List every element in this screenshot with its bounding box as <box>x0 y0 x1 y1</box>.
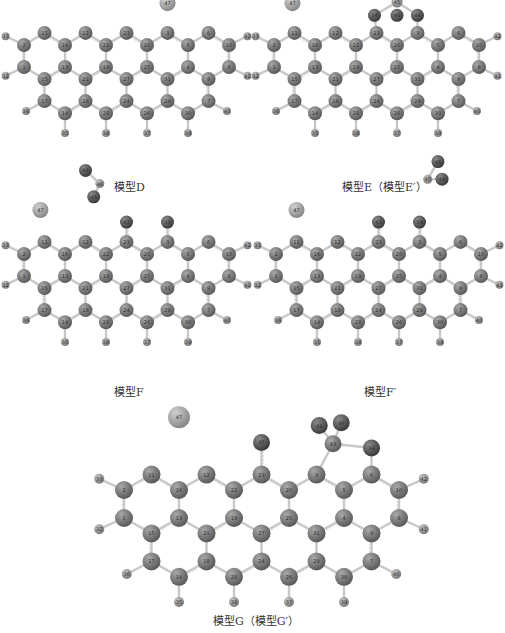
svg-text:35: 35 <box>62 339 68 345</box>
svg-text:20: 20 <box>286 487 292 493</box>
caption-model-f: 模型F <box>114 383 144 399</box>
svg-text:19: 19 <box>103 64 109 70</box>
svg-text:5: 5 <box>342 487 345 493</box>
svg-text:41: 41 <box>244 282 250 288</box>
svg-text:36: 36 <box>275 317 281 323</box>
svg-text:13: 13 <box>62 273 68 279</box>
svg-text:7: 7 <box>457 98 460 104</box>
svg-text:29: 29 <box>164 307 170 313</box>
svg-text:20: 20 <box>394 42 400 48</box>
svg-text:47: 47 <box>164 0 170 6</box>
svg-text:44: 44 <box>439 176 445 182</box>
svg-text:45: 45 <box>91 194 97 200</box>
svg-text:19: 19 <box>355 273 361 279</box>
svg-text:21: 21 <box>334 285 340 291</box>
svg-text:40: 40 <box>224 317 230 323</box>
svg-text:29: 29 <box>313 558 319 564</box>
svg-text:9: 9 <box>207 76 210 82</box>
svg-text:15: 15 <box>41 285 47 291</box>
svg-text:1: 1 <box>272 64 275 70</box>
svg-text:46: 46 <box>394 12 400 18</box>
svg-text:10: 10 <box>396 487 402 493</box>
svg-text:47: 47 <box>293 207 299 213</box>
svg-text:18: 18 <box>82 98 88 104</box>
svg-text:5: 5 <box>438 251 441 257</box>
svg-text:2: 2 <box>274 251 277 257</box>
svg-text:1: 1 <box>274 273 277 279</box>
svg-text:7: 7 <box>207 98 210 104</box>
svg-text:3: 3 <box>315 472 318 478</box>
svg-text:40: 40 <box>476 317 482 323</box>
svg-text:26: 26 <box>394 110 400 116</box>
svg-text:19: 19 <box>353 64 359 70</box>
svg-text:7: 7 <box>207 307 210 313</box>
svg-text:31: 31 <box>164 285 170 291</box>
svg-text:34: 34 <box>371 12 377 18</box>
svg-text:47: 47 <box>176 414 182 420</box>
svg-text:9: 9 <box>457 76 460 82</box>
svg-text:5: 5 <box>436 42 439 48</box>
panel-model-g: 2111612222320356101131925481521273191718… <box>80 400 425 633</box>
svg-text:22: 22 <box>231 487 237 493</box>
molecule-model-d: 2111612222320356101131925481521273191718… <box>0 0 252 200</box>
svg-text:7: 7 <box>459 307 462 313</box>
molecule-model-f: 2111612222320356101131925481521273191718… <box>0 200 252 400</box>
svg-text:25: 25 <box>144 64 150 70</box>
svg-text:43: 43 <box>375 219 381 225</box>
svg-text:4: 4 <box>186 273 189 279</box>
svg-text:25: 25 <box>394 64 400 70</box>
svg-text:36: 36 <box>124 571 130 577</box>
svg-text:22: 22 <box>103 42 109 48</box>
svg-text:26: 26 <box>396 319 402 325</box>
svg-text:46: 46 <box>338 420 344 426</box>
svg-text:15: 15 <box>148 530 154 536</box>
caption-model-d: 模型D <box>114 178 145 194</box>
svg-text:41: 41 <box>494 73 500 79</box>
svg-text:14: 14 <box>176 574 182 580</box>
svg-text:35: 35 <box>314 339 320 345</box>
svg-text:25: 25 <box>286 515 292 521</box>
svg-text:42: 42 <box>494 33 500 39</box>
svg-text:9: 9 <box>370 530 373 536</box>
svg-text:21: 21 <box>82 285 88 291</box>
svg-text:33: 33 <box>2 33 8 39</box>
svg-text:13: 13 <box>62 64 68 70</box>
svg-text:22: 22 <box>103 251 109 257</box>
svg-text:8: 8 <box>479 273 482 279</box>
svg-text:32: 32 <box>252 73 258 79</box>
svg-text:21: 21 <box>332 76 338 82</box>
svg-text:19: 19 <box>231 515 237 521</box>
svg-text:33: 33 <box>254 242 260 248</box>
svg-text:45: 45 <box>258 439 264 445</box>
svg-text:37: 37 <box>144 130 150 136</box>
svg-text:40: 40 <box>393 571 399 577</box>
svg-text:2: 2 <box>22 42 25 48</box>
svg-text:25: 25 <box>144 273 150 279</box>
svg-text:3: 3 <box>416 30 419 36</box>
svg-text:4: 4 <box>438 273 441 279</box>
svg-text:46: 46 <box>435 159 441 165</box>
caption-model-f-prime: 模型F′ <box>364 383 396 399</box>
svg-text:15: 15 <box>291 76 297 82</box>
svg-text:1: 1 <box>22 273 25 279</box>
svg-text:22: 22 <box>353 42 359 48</box>
svg-text:18: 18 <box>332 98 338 104</box>
svg-text:20: 20 <box>396 251 402 257</box>
svg-text:31: 31 <box>313 530 319 536</box>
svg-text:36: 36 <box>23 108 29 114</box>
svg-text:8: 8 <box>397 515 400 521</box>
svg-text:33: 33 <box>96 476 102 482</box>
svg-text:47: 47 <box>37 207 43 213</box>
svg-text:30: 30 <box>185 110 191 116</box>
svg-text:16: 16 <box>312 42 318 48</box>
svg-text:27: 27 <box>123 285 129 291</box>
svg-text:3: 3 <box>166 30 169 36</box>
svg-text:44: 44 <box>414 12 420 18</box>
svg-text:8: 8 <box>227 64 230 70</box>
svg-text:40: 40 <box>474 108 480 114</box>
svg-text:36: 36 <box>23 317 29 323</box>
svg-text:32: 32 <box>2 282 8 288</box>
svg-text:39: 39 <box>185 130 191 136</box>
svg-text:23: 23 <box>375 239 381 245</box>
svg-text:32: 32 <box>2 73 8 79</box>
